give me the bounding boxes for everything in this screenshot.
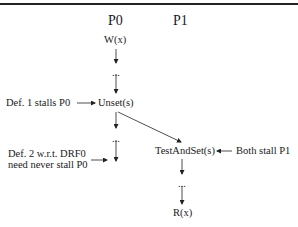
arrows-layer	[0, 0, 298, 227]
arrow-unset-to-testandset	[118, 112, 181, 142]
